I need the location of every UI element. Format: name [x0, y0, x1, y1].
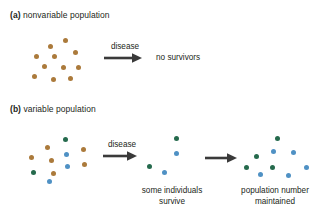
- organism-dot: [291, 150, 296, 155]
- panel-b-recovered-cluster: [244, 132, 314, 184]
- organism-dot: [271, 149, 276, 154]
- organism-dot: [68, 76, 73, 81]
- arrow-right-icon: [204, 152, 242, 164]
- organism-dot: [174, 151, 179, 156]
- organism-dot: [81, 147, 86, 152]
- panel-b-population-cluster: [24, 134, 94, 189]
- diagram-figure: (a) nonvariable population disease no su…: [0, 0, 325, 211]
- panel-a-arrow-label: disease: [96, 42, 154, 51]
- organism-dot: [65, 164, 70, 169]
- organism-dot: [52, 54, 57, 59]
- panel-a-tag: (a): [10, 10, 21, 20]
- organism-dot: [48, 44, 53, 49]
- organism-dot: [34, 54, 39, 59]
- panel-b-maintained-caption: population number maintained: [226, 186, 324, 207]
- organism-dot: [63, 137, 68, 142]
- organism-dot: [174, 136, 179, 141]
- organism-dot: [51, 171, 56, 176]
- organism-dot: [64, 152, 69, 157]
- maintained-caption-line-2: maintained: [226, 197, 324, 208]
- panel-a-outcome-text: no survivors: [156, 53, 200, 64]
- organism-dot: [45, 145, 50, 150]
- panel-b-arrow-label: disease: [96, 140, 148, 149]
- organism-dot: [29, 155, 34, 160]
- panel-a-population-cluster: [28, 32, 88, 84]
- panel-b-tag: (b): [10, 104, 21, 114]
- organism-dot: [304, 165, 309, 170]
- arrow-right-icon: [101, 150, 143, 162]
- organism-dot: [254, 154, 259, 159]
- panel-a-title: nonvariable population: [23, 10, 110, 20]
- panel-b-label: (b) variable population: [10, 104, 96, 114]
- organism-dot: [73, 50, 78, 55]
- organism-dot: [32, 74, 37, 79]
- organism-dot: [76, 65, 81, 70]
- organism-dot: [51, 77, 56, 82]
- organism-dot: [82, 162, 87, 167]
- organism-dot: [162, 170, 167, 175]
- organism-dot: [49, 158, 54, 163]
- panel-a-label: (a) nonvariable population: [10, 10, 110, 20]
- organism-dot: [61, 65, 66, 70]
- panel-b-survivors-cluster: [143, 132, 193, 182]
- maintained-caption-line-1: population number: [226, 186, 324, 197]
- organism-dot: [63, 38, 68, 43]
- organism-dot: [31, 170, 36, 175]
- organism-dot: [270, 165, 275, 170]
- panel-b-disease-arrow-group: disease: [96, 140, 148, 162]
- panel-b-title: variable population: [23, 104, 95, 114]
- organism-dot: [275, 136, 280, 141]
- panel-a-disease-arrow-group: disease: [96, 42, 154, 64]
- survivors-caption-line-1: some individuals: [126, 186, 218, 197]
- arrow-right-icon: [102, 52, 148, 64]
- survivors-caption-line-2: survive: [126, 197, 218, 208]
- organism-dot: [47, 179, 52, 184]
- organism-dot: [286, 173, 291, 178]
- panel-b-survivors-caption: some individuals survive: [126, 186, 218, 207]
- organism-dot: [42, 64, 47, 69]
- organism-dot: [147, 164, 152, 169]
- panel-b-recovery-arrow-group: [203, 152, 243, 164]
- organism-dot: [244, 165, 249, 170]
- organism-dot: [258, 172, 263, 177]
